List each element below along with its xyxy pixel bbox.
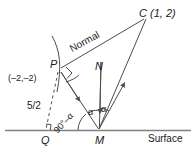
label-point-n: N xyxy=(95,61,103,72)
label-surface: Surface xyxy=(148,134,182,144)
label-point-p: P xyxy=(50,59,57,70)
angle-arc-complement-at-m xyxy=(78,114,86,130)
dashed-drop-line-pq xyxy=(46,72,58,129)
label-point-c: C (1, 2) xyxy=(139,8,176,19)
geometry-figure: C (1, 2) P (–2,–2) N M Q Normal Surface … xyxy=(0,0,195,158)
label-point-m: M xyxy=(95,135,104,146)
label-angle-alpha-left: α xyxy=(88,108,93,117)
label-angle-alpha-right: α xyxy=(101,105,106,114)
label-point-q: Q xyxy=(41,135,50,146)
label-distance-pq: 5/2 xyxy=(27,101,41,111)
tangent-arc-at-p xyxy=(66,75,79,82)
right-angle-marker-p xyxy=(66,67,72,79)
label-point-p-coords: (–2,–2) xyxy=(8,74,37,83)
